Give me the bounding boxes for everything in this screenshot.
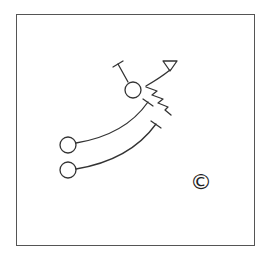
copyright-symbol: © [189,169,213,195]
route-arc-to-triangle [146,70,170,86]
t-cap-lower-icon [151,121,161,128]
block-line-top [118,64,128,82]
play-diagram [0,0,268,260]
player-top-circle [125,82,141,98]
block-arc-upper [76,102,148,143]
player-left-lower-circle [60,162,76,178]
motion-zigzag [146,87,171,115]
t-cap-top-icon [113,61,123,67]
t-cap-upper-icon [143,99,153,106]
player-left-upper-circle [60,137,76,153]
